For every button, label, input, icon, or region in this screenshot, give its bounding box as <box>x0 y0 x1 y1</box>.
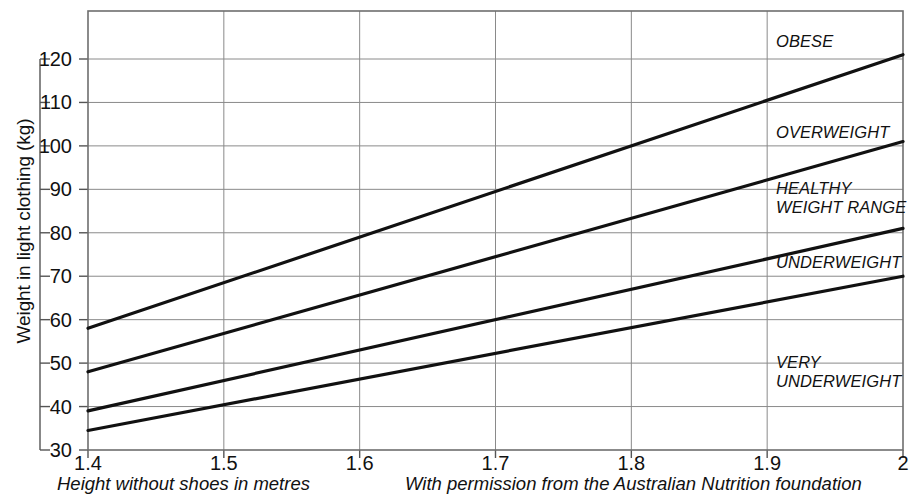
y-tick-label: 110 <box>26 91 72 114</box>
band-label: OBESE <box>776 32 833 51</box>
y-tick-label: 100 <box>26 134 72 157</box>
x-tick-label: 1.9 <box>732 452 802 475</box>
y-tick-label: 90 <box>26 178 72 201</box>
x-tick-label: 2 <box>868 452 911 475</box>
y-tick-label: 80 <box>26 221 72 244</box>
x-tick-label: 1.6 <box>325 452 395 475</box>
bmi-chart: Weight in light clothing (kg) 3040506070… <box>0 0 911 496</box>
x-tick-label: 1.5 <box>189 452 259 475</box>
band-label: OVERWEIGHT <box>776 123 889 142</box>
permission-credit: With permission from the Australian Nutr… <box>405 473 862 495</box>
y-tick-label: 120 <box>26 48 72 71</box>
band-label: HEALTHY WEIGHT RANGE <box>776 179 906 217</box>
y-tick-label: 40 <box>26 395 72 418</box>
y-tick-label: 70 <box>26 265 72 288</box>
x-tick-label: 1.4 <box>53 452 123 475</box>
x-tick-label: 1.7 <box>461 452 531 475</box>
y-tick-label: 60 <box>26 308 72 331</box>
x-axis-title: Height without shoes in metres <box>57 473 310 495</box>
x-tick-label: 1.8 <box>596 452 666 475</box>
band-label: UNDERWEIGHT <box>776 253 901 272</box>
y-tick-label: 50 <box>26 352 72 375</box>
band-label: VERY UNDERWEIGHT <box>776 353 901 391</box>
plot-area <box>0 0 911 496</box>
